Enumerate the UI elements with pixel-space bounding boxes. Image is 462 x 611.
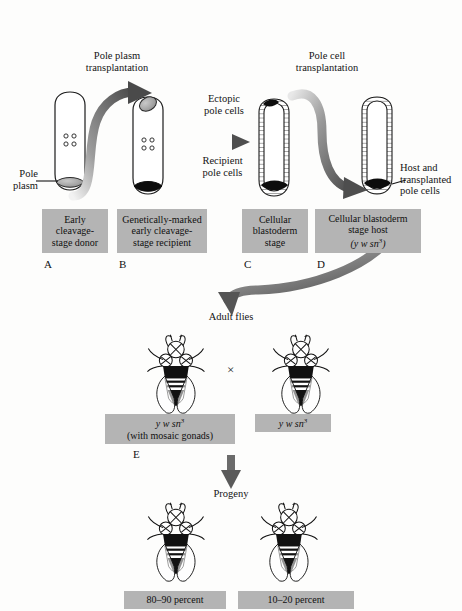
cross-box-e: y w sn3 (with mosaic gonads) [105, 414, 235, 444]
progeny-box-majority-label: 80–90 percent [147, 594, 204, 605]
diagram-artwork [0, 0, 462, 611]
progeny-fly-minority [260, 503, 317, 581]
progeny-label: Progeny [196, 488, 266, 500]
pole-plasm-transplantation-heading: Pole plasm transplantation [62, 50, 172, 73]
panel-letter-b: B [119, 258, 126, 270]
donor-embryo [55, 92, 85, 190]
stage-box-b: Genetically-marked early cleavage- stage… [117, 209, 207, 253]
progeny-box-majority: 80–90 percent [124, 591, 226, 609]
panel-letter-a: A [44, 258, 52, 270]
panel-letter-e: E [133, 448, 140, 460]
cross-box-tester: y w sn3 [255, 414, 331, 432]
stage-box-a: Early cleavage- stage donor [42, 209, 108, 253]
to-progeny-arrow [221, 455, 241, 489]
pole-cell-transplantation-heading: Pole cell transplantation [272, 50, 382, 73]
ectopic-pole-cells-callout: Ectopic pole cells [193, 93, 255, 116]
cross-box-e-genotype: y w sn3 [156, 416, 185, 430]
progeny-box-minority-label: 10–20 percent [268, 594, 325, 605]
cross-box-e-note: (with mosaic gonads) [127, 430, 213, 441]
pole-plasm-region [56, 178, 84, 188]
tester-fly [272, 335, 329, 413]
stage-box-d-text: Cellular blastoderm stage host [328, 213, 407, 236]
recipient-pole-cells-callout: Recipient pole cells [190, 155, 255, 178]
recipient-embryo [133, 94, 163, 194]
mosaic-gonad-fly [147, 335, 204, 413]
pole-plasm-callout: Pole plasm [2, 168, 38, 191]
adult-flies-label: Adult flies [186, 311, 276, 323]
pole-cell-transplant-arrow [292, 94, 368, 199]
host-blastoderm-embryo [362, 97, 392, 194]
stage-box-c-text: Cellular blastoderm stage [253, 214, 297, 248]
cross-box-tester-genotype: y w sn3 [279, 416, 308, 430]
stage-box-d-genotype: (y w sn3) [350, 236, 385, 250]
figure-canvas: Pole plasm transplantation Pole cell tra… [0, 0, 462, 611]
stage-box-c: Cellular blastoderm stage [242, 209, 308, 253]
stage-box-b-text: Genetically-marked early cleavage- stage… [122, 214, 201, 248]
panel-letter-c: C [244, 258, 251, 270]
progeny-box-minority: 10–20 percent [238, 591, 354, 609]
cross-symbol: × [227, 362, 234, 378]
blastoderm-embryo [259, 99, 289, 196]
development-arrow [196, 134, 250, 150]
host-transplanted-pole-cells-callout: Host and transplanted pole cells [400, 162, 460, 197]
panel-letter-d: D [317, 258, 325, 270]
progeny-fly-majority [147, 503, 204, 581]
stage-box-d: Cellular blastoderm stage host (y w sn3) [315, 209, 421, 253]
marked-pole-plasm [134, 182, 162, 192]
stage-box-a-text: Early cleavage- stage donor [52, 214, 98, 248]
